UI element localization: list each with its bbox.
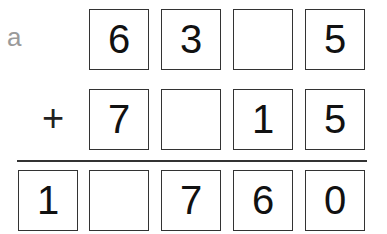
problem-label: a [7,22,21,53]
digit-box-r2-c3[interactable]: 1 [233,89,293,150]
digit-box-r1-c2[interactable]: 3 [161,9,221,70]
digit-box-r3-c2[interactable]: 7 [161,170,221,231]
digit-box-r3-c4[interactable]: 0 [305,170,365,231]
plus-sign: + [42,98,64,138]
digit-box-r3-c3[interactable]: 6 [233,170,293,231]
sum-divider-line [17,160,367,162]
digit-box-r1-c1[interactable]: 6 [89,9,149,70]
digit-box-r1-c3[interactable] [233,9,293,70]
digit-box-r3-c1[interactable] [89,170,149,231]
digit-box-r2-c4[interactable]: 5 [305,89,365,150]
digit-box-r1-c4[interactable]: 5 [305,9,365,70]
digit-box-r2-c2[interactable] [161,89,221,150]
digit-box-r3-c0[interactable]: 1 [18,170,78,231]
digit-box-r2-c1[interactable]: 7 [89,89,149,150]
